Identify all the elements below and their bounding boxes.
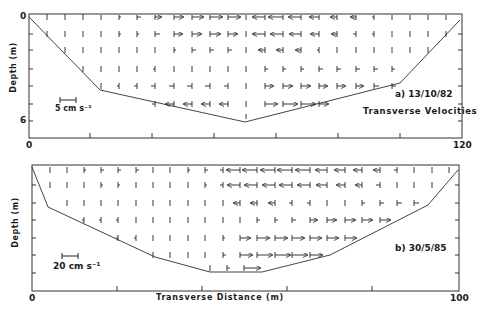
panel-b-x-ticks: [117, 286, 372, 291]
panel-a-vectors: [47, 14, 446, 119]
velocity-figure: [0, 0, 480, 313]
panel-b-vectors: [50, 167, 449, 271]
panel-a-frame: [29, 14, 462, 138]
panel-a: [29, 14, 462, 138]
panel-a-scale-bar: [60, 97, 76, 103]
panel-b-scale-bar: [62, 253, 78, 259]
panel-a-y-ticks: [29, 34, 462, 121]
panel-a-x-ticks: [90, 133, 400, 138]
panel-a-bed-profile: [29, 17, 460, 122]
panel-b: [32, 165, 459, 291]
panel-b-bed-profile: [32, 167, 458, 272]
